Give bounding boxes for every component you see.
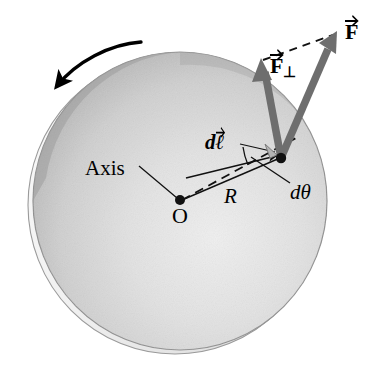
force-label: F <box>345 21 358 43</box>
origin-label: O <box>172 205 188 227</box>
application-point-dot <box>276 153 286 163</box>
dl-label: dℓ <box>205 132 224 153</box>
dl-vector-symbol: ℓ <box>216 132 225 153</box>
radius-label: R <box>224 186 237 207</box>
figure-canvas <box>0 0 379 371</box>
axis-label: Axis <box>85 158 125 179</box>
force-perp-vector-symbol: F <box>270 55 283 77</box>
physics-figure: Axis O R dθ dℓ F F⊥ <box>0 0 379 371</box>
force-perpendicular-label: F⊥ <box>270 55 296 79</box>
perpendicular-subscript: ⊥ <box>283 63 296 80</box>
dtheta-label: dθ <box>290 182 311 203</box>
force-vector-symbol: F <box>345 21 358 43</box>
